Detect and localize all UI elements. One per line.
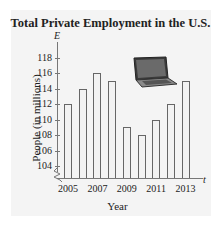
x-tick-label: 2007: [82, 183, 112, 194]
y-tick: [55, 89, 60, 90]
y-tick-label: 106: [26, 145, 52, 156]
bar-2010: [138, 135, 146, 178]
axis-break-icon: [50, 168, 64, 182]
y-axis: [57, 42, 58, 172]
y-tick: [55, 151, 60, 152]
y-tick: [55, 104, 60, 105]
x-tick-label: 2011: [141, 183, 171, 194]
x-axis-variable: t: [203, 174, 206, 185]
y-tick-label: 104: [26, 160, 52, 171]
bar-2012: [167, 104, 175, 178]
bar-2009: [123, 127, 131, 178]
y-tick-label: 118: [26, 52, 52, 63]
bar-2006: [79, 89, 87, 179]
bar-2011: [152, 120, 160, 179]
y-tick-label: 108: [26, 129, 52, 140]
laptop-icon: [130, 56, 178, 88]
y-tick: [55, 73, 60, 74]
x-tick-label: 2005: [53, 183, 83, 194]
bar-2013: [182, 81, 190, 178]
y-tick-label: 114: [26, 83, 52, 94]
x-tick-label: 2013: [171, 183, 201, 194]
x-axis-title: Year: [0, 200, 221, 212]
y-tick: [55, 58, 60, 59]
y-tick: [55, 120, 60, 121]
y-axis-variable: E: [54, 30, 60, 41]
bar-2007: [93, 73, 101, 178]
x-axis: [57, 178, 203, 179]
chart-title: Total Private Employment in the U.S.: [0, 16, 221, 31]
bar-2005: [64, 104, 72, 178]
y-tick-label: 112: [26, 98, 52, 109]
y-tick-label: 110: [26, 114, 52, 125]
x-tick-label: 2009: [112, 183, 142, 194]
y-tick: [55, 166, 60, 167]
y-tick: [55, 135, 60, 136]
y-tick-label: 116: [26, 67, 52, 78]
bar-2008: [108, 81, 116, 178]
